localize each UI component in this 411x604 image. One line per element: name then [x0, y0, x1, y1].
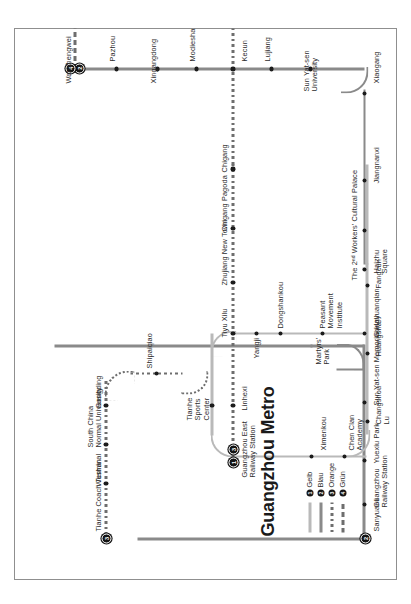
station-label-martyrs-park: Martyrs' Park: [314, 337, 331, 364]
legend-badge-line-4: 4: [339, 489, 346, 496]
station-dot[interactable]: [254, 331, 259, 336]
station-label-dongshankou: Dongshankou: [276, 281, 284, 328]
legend-swatch-line-4: [341, 502, 344, 532]
station-label-sun-yat-sen-university: Sun Yat-sen University: [302, 50, 319, 91]
terminal-badge-line2-wanshengwei[interactable]: 2: [74, 63, 84, 73]
station-label-xingangdong: Xingangdong: [149, 38, 157, 83]
legend-label-line-3: Orange: [326, 462, 335, 487]
station-dot[interactable]: [230, 226, 235, 231]
station-dot[interactable]: [362, 267, 367, 272]
legend-entry-line-3: 3Orange: [326, 462, 335, 496]
legend-label-line-4: Grün: [337, 471, 346, 487]
station-label-jiangnanxi: Jiangnanxi: [372, 147, 380, 183]
station-label-guangzhou-east-railway-station: Guangzhou East Railway Station: [240, 421, 257, 477]
station-label-tiyu-xilu: Tiyu Xilu: [220, 308, 228, 337]
station-label-wushan: Wushan: [94, 458, 102, 486]
station-label-sun-yat-sen-memorial-hall: Sun Yat-sen Memorial Hall: [372, 315, 380, 405]
station-dot[interactable]: [230, 66, 235, 71]
terminal-badge-line3-gz-east[interactable]: 3: [228, 444, 238, 454]
legend-swatch-line-2: [319, 502, 322, 532]
station-label-xiaogang: Xiaogang: [372, 51, 380, 83]
legend-label-line-1: Gelb: [304, 471, 313, 487]
legend-entry-line-2: 2Blau: [315, 472, 324, 496]
station-label-linhexi: Linhexi: [240, 386, 248, 410]
station-dot[interactable]: [362, 331, 367, 336]
station-dot[interactable]: [230, 166, 235, 171]
legend-entry-line-4: 4Grün: [337, 471, 346, 496]
station-dot[interactable]: [103, 403, 108, 408]
station-label-tianhe-sports-center: Tianhe Sports Center: [185, 397, 210, 420]
station-dot[interactable]: [342, 454, 347, 459]
station-dot[interactable]: [278, 331, 283, 336]
terminal-badge-line1-gz-east[interactable]: 1: [228, 457, 238, 467]
legend-entry-line-1: 1Gelb: [304, 471, 313, 496]
station-dot[interactable]: [365, 283, 370, 288]
station-label-wanshengwei: Wanshengwei: [64, 36, 72, 83]
station-label-chigang-pagoda: Chigang Pagoda: [220, 175, 228, 231]
station-dot[interactable]: [362, 502, 367, 507]
station-label-fangcun: Fangcun: [374, 259, 382, 288]
station-label-ximenkou: Ximenkou: [319, 416, 327, 450]
station-label-2nd-workers-cultural-palace: The 2ⁿᵈ Workers' Cultural Palace: [350, 169, 358, 280]
station-dot[interactable]: [362, 178, 367, 183]
station-dot[interactable]: [114, 66, 119, 71]
station-dot[interactable]: [362, 458, 367, 463]
station-label-gangding: Gangding: [94, 375, 102, 408]
station-dot[interactable]: [320, 331, 325, 336]
station-dot[interactable]: [365, 419, 370, 424]
station-label-lujiang: Lujiang: [263, 36, 271, 61]
legend-label-line-2: Blau: [315, 472, 324, 487]
station-dot[interactable]: [154, 371, 159, 376]
station-label-pazhou: Pazhou: [108, 35, 116, 61]
station-label-modiesha: Modiesha: [188, 28, 196, 61]
station-label-kecun: Kecun: [240, 40, 248, 61]
station-label-chigang: Chigang: [220, 144, 228, 172]
terminal-badge-line2-sanyuanli[interactable]: 2: [360, 533, 370, 543]
page-title: Guangzhou Metro: [257, 386, 278, 536]
station-label-peasant-movement-institute: Peasant Movement Institute: [318, 293, 343, 328]
map-canvas: 3 1 3 2 2 4 Tianhe Coach Terminal Wushan…: [14, 28, 397, 580]
legend-swatch-line-3: [330, 502, 333, 532]
station-dot[interactable]: [309, 454, 314, 459]
legend-badge-line-1: 1: [306, 489, 313, 496]
terminal-badge-line3-tianhe-coach[interactable]: 3: [101, 533, 111, 543]
station-dot[interactable]: [362, 91, 367, 96]
station-dot[interactable]: [194, 66, 199, 71]
station-dot[interactable]: [269, 66, 274, 71]
legend-badge-line-3: 3: [328, 489, 335, 496]
station-dot[interactable]: [103, 442, 108, 447]
map-frame: 3 1 3 2 2 4 Tianhe Coach Terminal Wushan…: [14, 28, 397, 580]
station-dot[interactable]: [230, 403, 235, 408]
station-dot[interactable]: [230, 331, 235, 336]
legend-swatch-line-1: [308, 502, 311, 532]
station-dot[interactable]: [103, 481, 108, 486]
station-label-sanyuanli: Sanyuanli: [372, 498, 380, 531]
station-label-yangji: Yangji: [252, 337, 260, 358]
metro-map-page: 3 1 3 2 2 4 Tianhe Coach Terminal Wushan…: [0, 0, 411, 604]
station-dot[interactable]: [362, 228, 367, 233]
station-dot[interactable]: [230, 280, 235, 285]
station-dot[interactable]: [362, 400, 367, 405]
station-dot[interactable]: [365, 351, 370, 356]
station-label-shipaiqiao: Shipaiqiao: [145, 332, 153, 368]
station-label-chen-clan-academy: Chen Clan Academy: [347, 414, 364, 450]
legend-badge-line-2: 2: [317, 489, 324, 496]
